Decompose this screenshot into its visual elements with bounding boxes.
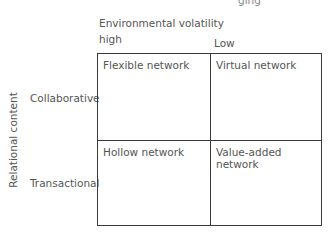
x-axis-title: Environmental volatility (99, 17, 224, 29)
cell-virtual-network: Virtual network (216, 59, 296, 71)
row-label-collaborative: Collaborative (30, 92, 100, 104)
y-axis-title: Relational content (7, 92, 19, 188)
column-label-low: Low (214, 37, 235, 49)
cell-flexible-network: Flexible network (103, 59, 189, 71)
grid-divider-horizontal (98, 140, 321, 141)
column-label-high: high (99, 33, 122, 45)
cell-hollow-network: Hollow network (103, 146, 184, 158)
cropped-heading-fragment: ging (238, 0, 261, 6)
cell-value-added-network: Value-added network (216, 146, 321, 170)
row-label-transactional: Transactional (30, 177, 99, 189)
matrix-grid: Flexible network Virtual network Hollow … (97, 53, 322, 226)
